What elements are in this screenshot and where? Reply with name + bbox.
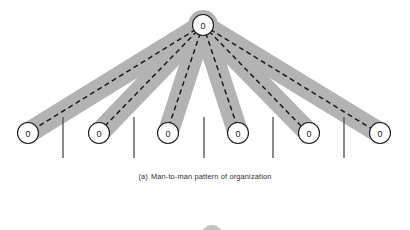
subordinate-node-5[interactable]: 0 <box>299 123 320 144</box>
superior-node-circle[interactable] <box>193 15 214 36</box>
subordinate-node-1[interactable]: 0 <box>18 123 39 144</box>
figure-caption: (a)Man-to-man pattern of organization <box>0 172 410 181</box>
subordinate-node-5-circle[interactable] <box>299 123 320 144</box>
subordinate-node-2[interactable]: 0 <box>89 123 110 144</box>
subordinate-node-6-circle[interactable] <box>370 123 391 144</box>
subordinate-node-6[interactable]: 0 <box>370 123 391 144</box>
subordinate-node-3-circle[interactable] <box>158 123 179 144</box>
subordinate-node-4[interactable]: 0 <box>228 123 249 144</box>
org-chart-canvas: 0 0 0 0 0 0 <box>0 0 410 230</box>
org-chart-figure: 0 0 0 0 0 0 <box>0 0 410 230</box>
subordinate-node-1-circle[interactable] <box>18 123 39 144</box>
figure-caption-tag: (a) <box>138 172 147 181</box>
subordinate-node-4-circle[interactable] <box>228 123 249 144</box>
figure-caption-text: Man-to-man pattern of organization <box>151 172 272 181</box>
subordinate-node-2-circle[interactable] <box>89 123 110 144</box>
superior-node[interactable]: 0 <box>193 15 214 36</box>
subordinate-node-3[interactable]: 0 <box>158 123 179 144</box>
next-figure-partial-node <box>201 225 223 230</box>
